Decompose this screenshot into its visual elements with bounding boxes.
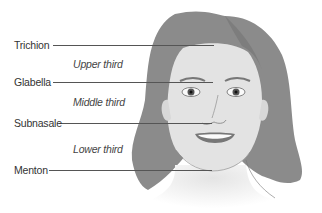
glabella-line <box>53 82 213 83</box>
facial-thirds-diagram: Trichion Glabella Subnasale Menton Upper… <box>0 0 322 213</box>
label-upper-third: Upper third <box>73 58 123 70</box>
subnasale-line <box>59 123 212 124</box>
label-lower-third: Lower third <box>73 143 123 155</box>
label-subnasale: Subnasale <box>14 117 62 129</box>
label-middle-third: Middle third <box>73 96 125 108</box>
face-shape <box>167 43 262 171</box>
label-trichion: Trichion <box>14 39 49 51</box>
face-illustration <box>0 0 322 213</box>
menton-line <box>49 170 212 171</box>
label-menton: Menton <box>14 164 48 176</box>
label-glabella: Glabella <box>14 76 51 88</box>
trichion-line <box>53 45 214 46</box>
